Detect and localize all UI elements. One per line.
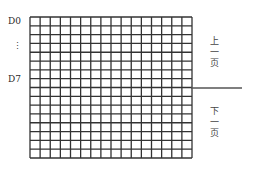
label-next-page: 下 一 页 <box>208 106 220 139</box>
label-next-page-char-2: 一 <box>208 117 220 128</box>
label-next-page-char-3: 页 <box>208 128 220 139</box>
label-previous-page-char-1: 上 <box>208 36 220 47</box>
label-next-page-char-1: 下 <box>208 106 220 117</box>
label-previous-page-char-3: 页 <box>208 58 220 69</box>
page-divider-line <box>0 0 255 169</box>
label-previous-page: 上 一 页 <box>208 36 220 69</box>
label-previous-page-char-2: 一 <box>208 47 220 58</box>
